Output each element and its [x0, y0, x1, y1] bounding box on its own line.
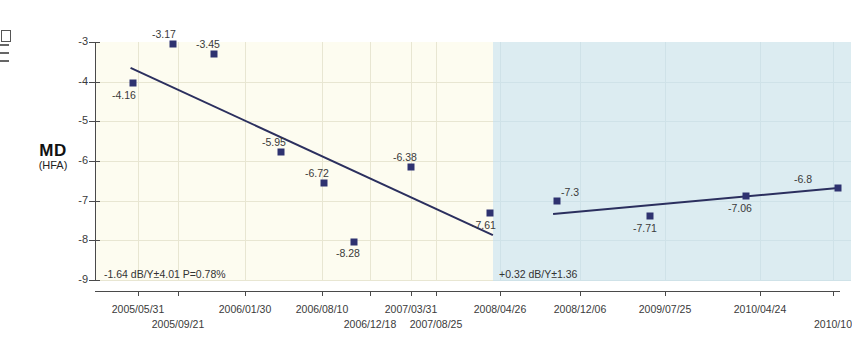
- x-tick-mark: [833, 291, 834, 296]
- x-tick-label: 2007/08/25: [410, 318, 463, 330]
- data-point-label: -3.45: [196, 38, 220, 50]
- gridline-vertical: [580, 42, 581, 280]
- gridline-horizontal: [493, 82, 851, 83]
- y-tick-mark-inner: [95, 201, 100, 202]
- x-tick-mark: [500, 291, 501, 296]
- gridline-horizontal: [95, 121, 493, 122]
- x-tick-mark: [665, 291, 666, 296]
- data-point[interactable]: [554, 198, 561, 205]
- y-tick-mark-inner: [95, 82, 100, 83]
- gridline-horizontal: [493, 240, 851, 241]
- gridline-horizontal: [95, 82, 493, 83]
- x-tick-label: 2006/12/18: [344, 318, 397, 330]
- x-tick-mark: [580, 291, 581, 296]
- y-axis-title-main: MD: [22, 142, 84, 160]
- data-point-label: -8.28: [336, 247, 360, 259]
- y-tick-mark-inner: [95, 42, 100, 43]
- x-tick-label: 2009/07/25: [639, 303, 692, 315]
- data-point-label: -7.61: [472, 219, 496, 231]
- x-tick-label: 2006/01/30: [219, 303, 272, 315]
- data-point-label: -6.72: [305, 167, 329, 179]
- x-tick-label: 2007/03/31: [385, 303, 438, 315]
- y-axis-title: MD (HFA): [22, 142, 84, 171]
- data-point[interactable]: [487, 210, 494, 217]
- data-point-label: -7.06: [728, 202, 752, 214]
- data-point[interactable]: [170, 41, 177, 48]
- gridline-vertical: [500, 42, 501, 280]
- x-tick-label: 2010/04/24: [734, 303, 787, 315]
- x-tick-label: 2008/12/06: [554, 303, 607, 315]
- y-tick-mark-inner: [95, 240, 100, 241]
- data-point[interactable]: [321, 180, 328, 187]
- y-tick-label: -5: [60, 114, 88, 126]
- gridline-vertical: [833, 42, 834, 280]
- late-fit-annotation: +0.32 dB/Y±1.36: [499, 268, 577, 280]
- data-point[interactable]: [130, 80, 137, 87]
- gridline-horizontal: [95, 280, 493, 281]
- y-tick-label: -8: [60, 233, 88, 245]
- data-point-label: -3.17: [152, 28, 176, 40]
- gridline-vertical: [138, 42, 139, 280]
- data-point-label: -6.8: [794, 173, 812, 185]
- gridline-vertical: [370, 42, 371, 280]
- gridline-horizontal: [493, 121, 851, 122]
- early-fit-annotation: -1.64 dB/Y±4.01 P=0.78%: [104, 268, 226, 280]
- data-point[interactable]: [647, 213, 654, 220]
- data-point-label: -7.3: [561, 186, 579, 198]
- data-point[interactable]: [351, 239, 358, 246]
- gridline-vertical: [178, 42, 179, 280]
- gridline-horizontal: [493, 161, 851, 162]
- gridline-horizontal: [95, 240, 493, 241]
- gridline-vertical: [760, 42, 761, 280]
- x-tick-mark: [245, 291, 246, 296]
- y-tick-mark-inner: [95, 161, 100, 162]
- x-tick-label: 2006/08/10: [296, 303, 349, 315]
- data-point[interactable]: [835, 185, 842, 192]
- x-tick-mark: [436, 291, 437, 296]
- data-point-label: -4.16: [112, 89, 136, 101]
- data-point-label: -5.95: [262, 136, 286, 148]
- x-axis-line: [95, 291, 840, 292]
- gridline-vertical: [322, 42, 323, 280]
- x-tick-mark: [760, 291, 761, 296]
- gridline-vertical: [665, 42, 666, 280]
- data-point[interactable]: [211, 51, 218, 58]
- fragment-line-1: [0, 44, 9, 46]
- x-tick-label: 2008/04/26: [474, 303, 527, 315]
- gridline-vertical: [245, 42, 246, 280]
- x-tick-mark: [322, 291, 323, 296]
- gridline-horizontal: [95, 201, 493, 202]
- x-tick-label: 2005/05/31: [112, 303, 165, 315]
- gridline-horizontal: [493, 280, 851, 281]
- y-tick-label: -4: [60, 75, 88, 87]
- x-tick-mark: [411, 291, 412, 296]
- y-tick-mark-inner: [95, 280, 100, 281]
- data-point[interactable]: [743, 193, 750, 200]
- y-tick-label: -3: [60, 35, 88, 47]
- x-tick-label: 2010/10: [814, 318, 852, 330]
- data-point-label: -6.38: [393, 151, 417, 163]
- gridline-horizontal: [95, 161, 493, 162]
- x-tick-label: 2005/09/21: [152, 318, 205, 330]
- data-point[interactable]: [408, 164, 415, 171]
- y-tick-label: -7: [60, 194, 88, 206]
- fragment-line-2: [0, 52, 9, 54]
- gridline-vertical: [436, 42, 437, 280]
- x-tick-mark: [138, 291, 139, 296]
- x-tick-mark: [370, 291, 371, 296]
- clipped-edge-fragment: [0, 30, 9, 62]
- x-tick-mark: [178, 291, 179, 296]
- y-tick-label: -9: [60, 273, 88, 285]
- y-axis-title-sub: (HFA): [22, 160, 84, 172]
- data-point[interactable]: [278, 149, 285, 156]
- fragment-box-icon: [1, 30, 11, 42]
- data-point-label: -7.71: [633, 222, 657, 234]
- y-tick-mark-inner: [95, 121, 100, 122]
- fragment-line-3: [0, 60, 9, 62]
